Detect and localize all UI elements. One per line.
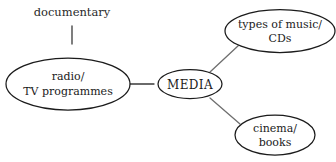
node-cinema-books-ellipse[interactable]	[235, 115, 315, 155]
connector-media-to-music-cds	[210, 45, 239, 72]
node-radio-tv-ellipse[interactable]	[6, 58, 130, 110]
mind-map-canvas: documentary radio/ TV programmes MEDIA t…	[0, 0, 336, 162]
node-music-cds-line2: CDs	[269, 32, 292, 45]
connector-media-to-cinema-books	[210, 98, 240, 124]
node-media-label: MEDIA	[167, 78, 213, 92]
node-cinema-books-line1: cinema/	[253, 122, 297, 135]
label-documentary: documentary	[34, 5, 111, 19]
node-cinema-books-line2: books	[259, 136, 292, 149]
node-music-cds-ellipse[interactable]	[225, 10, 335, 53]
node-radio-tv-line1: radio/	[52, 70, 85, 83]
mind-map-diagram: documentary radio/ TV programmes MEDIA t…	[0, 0, 336, 162]
node-radio-tv-line2: TV programmes	[23, 85, 113, 98]
node-music-cds-line1: types of music/	[238, 18, 322, 31]
